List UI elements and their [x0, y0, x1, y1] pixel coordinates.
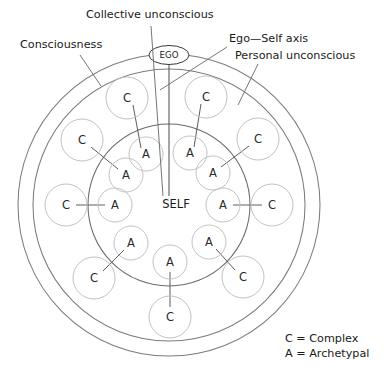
complex-label: C: [268, 198, 276, 212]
node-pair: C A: [196, 118, 279, 190]
diagram-page: C A C A C A C A: [0, 0, 388, 379]
complex-label: C: [90, 271, 98, 285]
personal-unconscious-label: Personal unconscious: [235, 49, 355, 62]
callout-collective-unconscious: Collective unconscious: [86, 8, 214, 196]
archetypal-label: A: [142, 147, 150, 161]
node-pair: C A: [206, 184, 293, 226]
node-pair: C A: [192, 225, 264, 298]
personal-unconscious-leader-line: [238, 64, 258, 105]
node-pair: C A: [106, 77, 163, 171]
ego-label: EGO: [160, 50, 179, 60]
connector-line: [91, 147, 118, 169]
archetypal-label: A: [186, 146, 194, 160]
legend-complex: C = Complex: [285, 332, 359, 345]
ego-marker[interactable]: EGO: [149, 46, 189, 65]
archetypal-label: A: [111, 198, 119, 212]
complex-label: C: [78, 133, 86, 147]
archetypal-label: A: [205, 235, 213, 249]
archetypal-label: A: [127, 236, 135, 250]
archetypal-label: A: [166, 255, 174, 269]
node-pair: C A: [61, 119, 143, 192]
self-label: SELF: [162, 197, 190, 211]
complex-label: C: [166, 310, 174, 324]
complex-label: C: [123, 91, 131, 105]
node-pair: C A: [149, 245, 191, 338]
archetypal-label: A: [209, 166, 217, 180]
node-pair: C A: [173, 76, 227, 170]
ego-self-axis-label: Ego—Self axis: [229, 32, 308, 45]
psyche-structure-diagram: C A C A C A C A: [0, 0, 388, 379]
archetypal-label: A: [219, 198, 227, 212]
legend: C = Complex A = Archetypal: [285, 332, 369, 360]
complex-label: C: [62, 198, 70, 212]
node-pair: C A: [73, 226, 148, 299]
complex-label: C: [254, 132, 262, 146]
connector-line: [221, 146, 249, 167]
legend-archetypal: A = Archetypal: [285, 347, 369, 360]
complex-label: C: [239, 270, 247, 284]
callouts-group: Consciousness Collective unconscious Ego…: [20, 8, 355, 196]
archetypal-label: A: [122, 168, 130, 182]
complex-label: C: [202, 90, 210, 104]
collective-unconscious-label: Collective unconscious: [86, 8, 214, 21]
connector-line: [194, 104, 201, 147]
callout-consciousness: Consciousness: [20, 38, 102, 86]
consciousness-label: Consciousness: [20, 38, 102, 51]
callout-personal-unconscious: Personal unconscious: [235, 49, 355, 105]
